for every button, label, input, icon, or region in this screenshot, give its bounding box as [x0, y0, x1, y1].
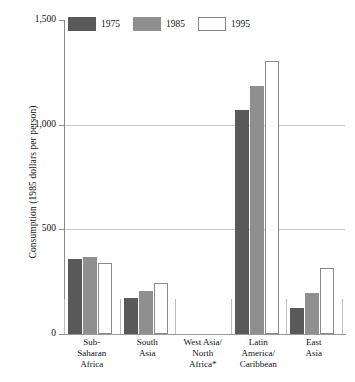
category-label-line: Africa* — [172, 359, 234, 370]
category-label-line: East — [283, 337, 345, 348]
chart-legend: 197519851995 — [68, 17, 250, 31]
category-separator — [342, 299, 343, 334]
category-label: EastAsia — [283, 337, 345, 359]
bar — [320, 268, 334, 334]
category-separator — [175, 299, 176, 334]
legend-label: 1975 — [101, 19, 120, 29]
bar — [154, 283, 168, 334]
bar — [250, 86, 264, 334]
category-label-line: South — [116, 337, 178, 348]
category-label-line: America/ — [227, 348, 289, 359]
category-label-line: Asia — [283, 348, 345, 359]
bar — [98, 263, 112, 334]
legend-item: 1975 — [68, 17, 120, 31]
bar — [68, 259, 82, 334]
category-separator — [286, 299, 287, 334]
category-label: SouthAsia — [116, 337, 178, 359]
category-label-line: Sub- — [61, 337, 123, 348]
category-label-line: Saharan — [61, 348, 123, 359]
bar — [265, 61, 279, 334]
category-label-line: Asia — [116, 348, 178, 359]
bar — [124, 298, 138, 334]
category-label: LatinAmerica/Caribbean — [227, 337, 289, 370]
category-label: West Asia/NorthAfrica* — [172, 337, 234, 370]
category-label-line: Africa — [61, 359, 123, 370]
dark-gray-swatch — [68, 17, 96, 31]
bar-chart: Consumption (1985 dollars per person) 05… — [0, 0, 355, 382]
medium-gray-swatch — [133, 17, 161, 31]
category-label-line: Latin — [227, 337, 289, 348]
white-swatch — [198, 17, 226, 31]
category-label: Sub-SaharanAfrica — [61, 337, 123, 370]
bar — [305, 293, 319, 334]
bar — [235, 110, 249, 334]
legend-item: 1985 — [133, 17, 185, 31]
category-label-line: North — [172, 348, 234, 359]
legend-label: 1995 — [231, 19, 250, 29]
category-label-line: West Asia/ — [172, 337, 234, 348]
category-separator — [231, 299, 232, 334]
bar — [83, 257, 97, 334]
category-separator — [64, 299, 65, 334]
plot-area — [0, 0, 355, 382]
legend-item: 1995 — [198, 17, 250, 31]
bar — [290, 308, 304, 334]
category-label-line: Caribbean — [227, 359, 289, 370]
legend-label: 1985 — [166, 19, 185, 29]
category-separator — [120, 299, 121, 334]
bar — [139, 291, 153, 334]
